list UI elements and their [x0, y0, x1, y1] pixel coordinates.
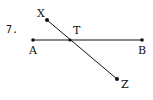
label-t: T — [73, 24, 81, 37]
geometry-diagram: 7. X T A B Z — [0, 0, 153, 100]
problem-number: 7. — [6, 24, 18, 35]
segment-xz — [47, 20, 117, 79]
point-b — [140, 38, 144, 42]
label-x: X — [37, 7, 45, 20]
point-t — [68, 38, 71, 41]
point-x — [45, 18, 49, 22]
label-b: B — [138, 44, 146, 57]
label-z: Z — [121, 78, 129, 91]
point-a — [31, 38, 35, 42]
label-a: A — [28, 44, 38, 57]
point-z — [115, 77, 119, 81]
